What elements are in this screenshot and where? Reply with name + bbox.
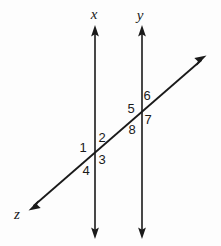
geometry-figure: x y z 1 2 3 4 5 6 7 8 [0,0,221,246]
transversal-line-z [29,56,207,211]
vertical-line-y [138,25,146,239]
vertical-line-x [91,25,99,239]
transversal-line-z-shaft [34,60,202,206]
figure-canvas [0,0,221,246]
